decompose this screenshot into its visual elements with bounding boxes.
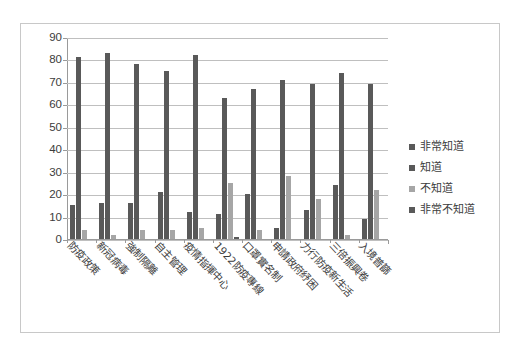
plot-area: 0102030405060708090 [67, 38, 388, 240]
bar [374, 190, 379, 239]
bar [187, 212, 192, 239]
legend-swatch-icon [409, 144, 415, 150]
bar-group [184, 37, 213, 239]
bar [368, 84, 373, 239]
bar [158, 192, 163, 239]
legend-item[interactable]: 知道 [409, 157, 497, 178]
y-axis-tick-label: 80 [49, 55, 62, 67]
bar [362, 219, 367, 239]
bar [70, 205, 75, 239]
bar [286, 176, 291, 239]
legend-label: 非常知道 [420, 141, 464, 152]
y-axis-tick-label: 90 [49, 32, 62, 44]
legend-item[interactable]: 非常不知道 [409, 199, 497, 220]
y-axis-tick-label: 30 [49, 167, 62, 179]
y-axis-tick-label: 60 [49, 100, 62, 112]
legend-swatch-icon [409, 207, 415, 213]
bar-group [330, 37, 359, 239]
bar [274, 228, 279, 239]
bar [170, 230, 175, 239]
bar [228, 183, 233, 239]
bar [82, 230, 87, 239]
bar-group [67, 37, 96, 239]
bar [257, 230, 262, 239]
bar [193, 55, 198, 239]
bar-group [96, 37, 125, 239]
y-axis-tick-label: 70 [49, 77, 62, 89]
bar-group [125, 37, 154, 239]
bar [128, 203, 133, 239]
bar [216, 214, 221, 239]
bar [140, 230, 145, 239]
bar [99, 203, 104, 239]
legend-swatch-icon [409, 165, 415, 171]
legend-item[interactable]: 非常知道 [409, 136, 497, 157]
bar [164, 71, 169, 239]
bar [280, 80, 285, 239]
bar-group [155, 37, 184, 239]
bar [310, 84, 315, 239]
bar [333, 185, 338, 239]
chart-frame: 0102030405060708090 防疫政策新冠病毒強制隔離自主管理疫情指揮… [20, 23, 500, 333]
y-axis-tick-label: 50 [49, 122, 62, 134]
bar [105, 53, 110, 239]
legend-swatch-icon [409, 186, 415, 192]
bar [304, 210, 309, 239]
bar-group [300, 37, 329, 239]
bar [339, 73, 344, 239]
bar [234, 237, 239, 239]
legend-item[interactable]: 不知道 [409, 178, 497, 199]
legend-label: 非常不知道 [420, 204, 475, 215]
legend-label: 知道 [420, 162, 442, 173]
bar [251, 89, 256, 239]
bar [134, 64, 139, 239]
y-axis-tick-label: 10 [49, 212, 62, 224]
chart-legend: 非常知道知道不知道非常不知道 [409, 136, 497, 220]
bar [199, 228, 204, 239]
bar [245, 194, 250, 239]
bar [222, 98, 227, 239]
bar-group [213, 37, 242, 239]
bar [345, 235, 350, 239]
x-axis-labels: 防疫政策新冠病毒強制隔離自主管理疫情指揮中心1922防疫專線口罩實名制申請政府紓… [67, 240, 407, 330]
y-axis-tick-label: 20 [49, 189, 62, 201]
bar [316, 199, 321, 239]
bar-group [242, 37, 271, 239]
bar-group [359, 37, 388, 239]
y-axis-tick-label: 0 [56, 234, 62, 246]
legend-label: 不知道 [420, 183, 453, 194]
y-axis-tick-label: 40 [49, 144, 62, 156]
bar [76, 57, 81, 239]
bar [111, 235, 116, 239]
bar-group [271, 37, 300, 239]
